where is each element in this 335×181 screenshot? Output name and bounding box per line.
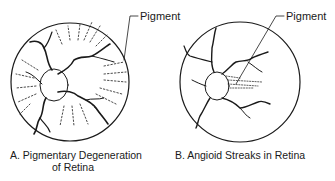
caption-b: B. Angioid Streaks in Retina xyxy=(170,149,310,161)
retina-outline-a xyxy=(11,23,129,141)
panel-a-fundus xyxy=(11,16,138,141)
pigment-callout-b: Pigment xyxy=(286,10,326,22)
caption-a-line1: A. Pigmentary Degeneration xyxy=(10,149,136,161)
panel-b-fundus xyxy=(180,16,300,142)
optic-disc-b xyxy=(205,72,229,100)
pigment-callout-a: Pigment xyxy=(140,10,180,22)
optic-disc-a xyxy=(40,69,68,101)
caption-a-line2: of Retina xyxy=(10,161,136,173)
